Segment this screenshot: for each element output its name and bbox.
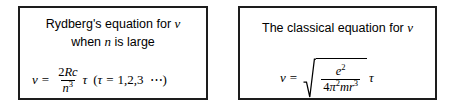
equation-tau-multiplier: τ [83,72,88,88]
condition-equals-sign: = [106,72,113,88]
radius-exponent: 3 [354,77,358,87]
denominator-exponent: 3 [69,78,73,88]
numerator-symbols: Rc [64,65,77,79]
condition-ellipsis: ⋯ [150,72,163,88]
panel-classical: The classical equation for ν ν = [238,6,437,100]
panel-rydberg-body: Rydberg's equation for ν when n is large… [20,8,206,98]
panel-rydberg-caption-line-2: when n is large [20,34,206,50]
caption-text: when [71,35,104,49]
classical-equation: ν = e2 4π2mr3 [280,58,374,98]
classical-equation-row: ν = e2 4π2mr3 [280,58,374,98]
radical-sign-icon [303,58,316,98]
rydberg-condition: ( τ = 1,2,3 ⋯ ) [93,72,167,88]
panel-classical-caption-line-1: The classical equation for ν [240,20,435,36]
condition-values: 1,2,3 [118,72,144,88]
equals-sign: = [42,72,49,88]
classical-fraction: e2 4π2mr3 [321,65,360,93]
fraction-denominator: 4π2mr3 [321,79,360,94]
equation-lhs-nu: ν [280,70,286,86]
numerator-exponent: 2 [341,62,345,72]
mass-symbol: m [340,80,349,94]
equation-lhs-nu: ν [32,72,38,88]
panel-classical-body: The classical equation for ν ν = [240,8,435,98]
condition-close-paren: ) [163,72,167,88]
equation-tau-multiplier: τ [369,70,374,86]
radicand: e2 4π2mr3 [316,58,367,98]
fraction-numerator: 2Rc [56,66,79,80]
caption-text: Rydberg's equation for [46,17,175,31]
rydberg-fraction: 2Rc n3 [56,66,79,94]
square-root: e2 4π2mr3 [303,58,367,98]
caption-text: The classical equation for [262,21,407,35]
nu-symbol: ν [407,20,413,35]
figure-container: Rydberg's equation for ν when n is large… [0,0,458,111]
equals-sign: = [290,70,297,86]
fraction-denominator: n3 [61,80,76,95]
rydberg-equation: ν = 2Rc n3 τ ( τ = 1,2,3 ⋯ [32,66,167,94]
panel-rydberg-caption-line-1: Rydberg's equation for ν [20,16,206,32]
caption-text: is large [111,35,155,49]
panel-rydberg: Rydberg's equation for ν when n is large… [18,6,208,100]
condition-tau: τ [98,72,103,88]
rydberg-equation-row: ν = 2Rc n3 τ ( τ = 1,2,3 ⋯ [32,66,167,94]
nu-symbol: ν [175,16,181,31]
